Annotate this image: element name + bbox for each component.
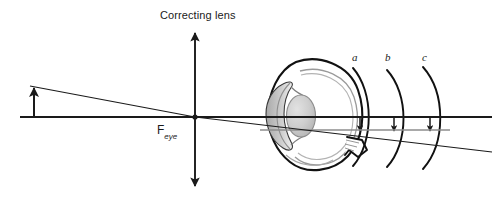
arc-b [387, 70, 404, 167]
focal-point-subscript: eye [164, 132, 177, 141]
arc-label-c: c [422, 52, 427, 63]
ray-from-object-to-lens-center [30, 86, 195, 117]
focal-point-dot [192, 114, 197, 119]
image-height-arrows [360, 117, 430, 131]
optics-ray-diagram-figure: Correcting lens Feye a b c [0, 0, 504, 200]
arc-label-a: a [352, 52, 358, 63]
eye-illustration [266, 59, 367, 170]
arc-label-b: b [385, 52, 391, 63]
focal-point-label: Feye [157, 124, 177, 139]
diagram-canvas [0, 0, 504, 200]
correcting-lens-label: Correcting lens [160, 10, 235, 21]
